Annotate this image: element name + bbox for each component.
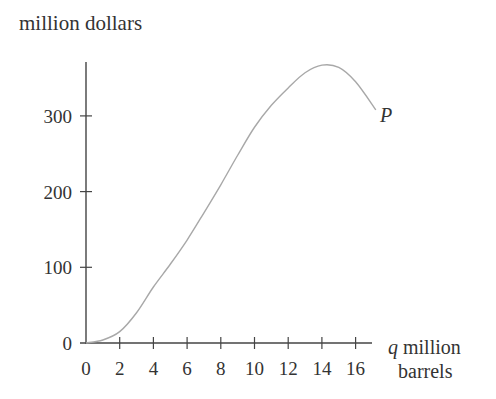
x-tick-label: 12 xyxy=(279,358,298,379)
x-axis-label: q million xyxy=(388,336,461,359)
x-tick-label: 2 xyxy=(115,358,125,379)
y-tick-label: 100 xyxy=(44,257,73,278)
x-tick-label: 4 xyxy=(149,358,159,379)
y-tick-label: 0 xyxy=(63,333,73,354)
curve-p xyxy=(86,65,376,343)
y-tick-label: 200 xyxy=(44,182,73,203)
y-tick-label: 300 xyxy=(44,106,73,127)
chart: million dollars 0100200300 0246810121416… xyxy=(0,0,496,399)
x-tick-label: 0 xyxy=(81,358,91,379)
curve-label: P xyxy=(379,104,392,126)
x-tick-label: 6 xyxy=(182,358,192,379)
x-tick-label: 10 xyxy=(245,358,264,379)
x-tick-label: 14 xyxy=(312,358,332,379)
x-axis-label-line2: barrels xyxy=(398,360,453,382)
x-tick-label: 16 xyxy=(346,358,365,379)
x-tick-label: 8 xyxy=(216,358,226,379)
y-axis-label: million dollars xyxy=(19,11,142,35)
y-ticks: 0100200300 xyxy=(44,106,93,354)
